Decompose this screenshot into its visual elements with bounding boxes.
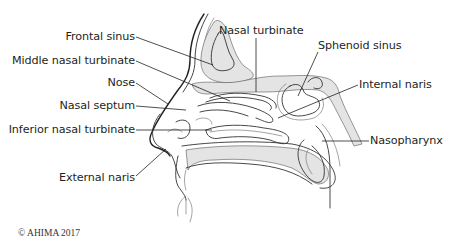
copyright-notice: © AHIMA 2017 — [18, 228, 80, 238]
leader-nasal-septum — [136, 106, 186, 110]
label-nasal-turbinate: Nasal turbinate — [219, 24, 304, 37]
label-sphenoid-sinus: Sphenoid sinus — [318, 39, 401, 52]
label-frontal-sinus: Frontal sinus — [66, 30, 135, 43]
label-middle-nasal-turbinate: Middle nasal turbinate — [12, 54, 135, 67]
leader-nose — [136, 83, 168, 104]
label-external-naris: External naris — [59, 171, 135, 184]
label-internal-naris: Internal naris — [359, 78, 432, 91]
label-nose: Nose — [107, 76, 135, 89]
leader-frontal-sinus — [136, 37, 213, 65]
label-nasal-septum: Nasal septum — [59, 99, 135, 112]
nasal-turbinates — [176, 93, 289, 143]
label-inferior-nasal-turbinate: Inferior nasal turbinate — [9, 123, 135, 136]
leader-external-naris — [136, 149, 166, 176]
hard-palate — [182, 142, 335, 188]
cranial-base — [192, 76, 362, 147]
label-nasopharynx: Nasopharynx — [370, 134, 443, 147]
